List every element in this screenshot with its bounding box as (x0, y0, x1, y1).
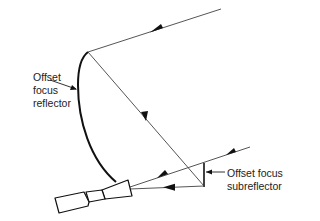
incoming-ray-top (88, 9, 221, 52)
reflected-ray (88, 52, 204, 186)
subreflector-label: Offset focus subreflector (227, 167, 283, 193)
arrow-icon (157, 170, 168, 178)
subreflector-leader (206, 170, 225, 175)
feed-horn (55, 180, 132, 213)
arrow-icon (163, 184, 175, 191)
subreflector-label-line1: Offset focus (227, 167, 283, 180)
arrow-icon (226, 148, 236, 155)
reflector-curve (78, 52, 116, 182)
reflector-label: Offset focus reflector (33, 71, 71, 110)
reflector-label-line2: focus (33, 84, 71, 97)
reflector-label-line3: reflector (33, 97, 71, 110)
subreflector-label-line2: subreflector (227, 180, 283, 193)
reflector-label-line1: Offset (33, 71, 71, 84)
subreflector-to-feed-ray (130, 184, 204, 191)
arrow-icon (150, 24, 163, 33)
